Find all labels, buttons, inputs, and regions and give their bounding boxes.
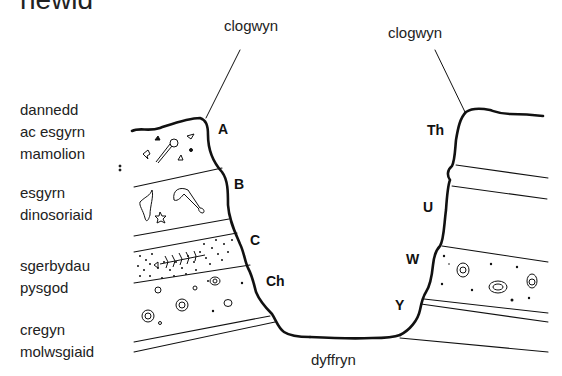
ammonite-icon [527, 274, 537, 288]
ammonite-icon [489, 281, 507, 293]
ammonite-icon [210, 277, 220, 285]
dot-icon [119, 169, 121, 171]
bone-joint-icon [170, 139, 178, 147]
tooth-fossil-icon [178, 155, 183, 160]
right-mollusc-fossils [457, 263, 537, 293]
tooth-fossil-icon [155, 136, 160, 140]
shell-icon [155, 287, 161, 293]
right-mollusc-dots [441, 255, 530, 302]
left-cliff-outline [132, 118, 310, 337]
left-cliff-leader-line [206, 50, 240, 118]
long-bone-icon [156, 144, 172, 163]
right-cliff-outline [400, 109, 543, 335]
claw-fossil-icon [140, 190, 153, 221]
shell-icon [159, 322, 162, 325]
shell-icon [224, 300, 232, 307]
mammal-fossils [119, 134, 194, 171]
tooth-fossil-icon [187, 134, 194, 139]
mollusc-fossils [142, 277, 232, 325]
dinosaur-bone-icon [174, 188, 204, 213]
ammonite-icon [457, 263, 469, 277]
ammonite-icon [142, 310, 154, 322]
ammonite-icon [176, 299, 188, 311]
star-fossil-icon [155, 212, 166, 223]
left-strata-lines [134, 168, 275, 352]
bone-fragment-icon [143, 150, 150, 159]
valley-floor [310, 335, 400, 338]
right-strata-lines [400, 165, 548, 352]
dot-icon [190, 149, 193, 152]
right-cliff-leader-line [435, 50, 465, 112]
dot-icon [119, 165, 121, 167]
fish-skeleton-icon [154, 251, 205, 268]
cliff-valley-diagram [0, 0, 562, 376]
dinosaur-fossils [140, 188, 204, 223]
shell-icon [193, 286, 197, 290]
